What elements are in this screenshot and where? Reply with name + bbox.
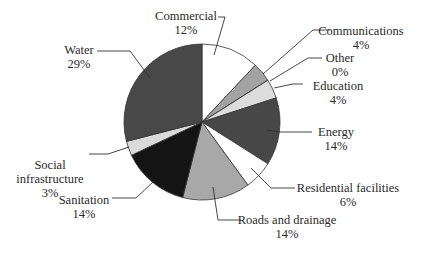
pie-slices: [124, 44, 280, 200]
label-commercial: Commercial12%: [155, 9, 217, 37]
label-text: Education: [313, 79, 364, 93]
label-text: infrastructure: [16, 172, 84, 186]
label-percent: 14%: [276, 227, 299, 241]
label-text: Energy: [318, 125, 355, 139]
label-text: Sanitation: [59, 193, 110, 207]
label-sanitation: Sanitation14%: [59, 193, 110, 221]
label-percent: 14%: [325, 139, 348, 153]
label-text: Social: [34, 158, 66, 172]
label-education: Education4%: [313, 79, 364, 107]
label-roads-and-drainage: Roads and drainage14%: [238, 213, 337, 241]
pie-chart: Commercial12%Communications4%Other0%Educ…: [0, 0, 431, 253]
leader-line-sanitation: [112, 182, 153, 198]
label-residential-facilities: Residential facilities6%: [297, 181, 400, 209]
label-text: Water: [64, 43, 94, 57]
label-percent: 4%: [330, 93, 347, 107]
label-percent: 3%: [42, 186, 59, 200]
label-other: Other0%: [326, 51, 355, 79]
leader-line-education: [274, 84, 303, 88]
label-percent: 0%: [332, 65, 349, 79]
label-text: Roads and drainage: [238, 213, 337, 227]
label-text: Residential facilities: [297, 181, 400, 195]
label-energy: Energy14%: [318, 125, 355, 153]
label-text: Communications: [318, 24, 404, 38]
label-percent: 6%: [340, 195, 357, 209]
label-percent: 4%: [353, 38, 370, 52]
label-text: Commercial: [155, 9, 217, 23]
label-percent: 12%: [175, 23, 198, 37]
label-communications: Communications4%: [318, 24, 404, 52]
label-water: Water29%: [64, 43, 94, 71]
label-percent: 29%: [68, 57, 91, 71]
leader-line-social-infrastructure: [89, 147, 129, 154]
label-percent: 14%: [73, 207, 96, 221]
label-text: Other: [326, 51, 355, 65]
